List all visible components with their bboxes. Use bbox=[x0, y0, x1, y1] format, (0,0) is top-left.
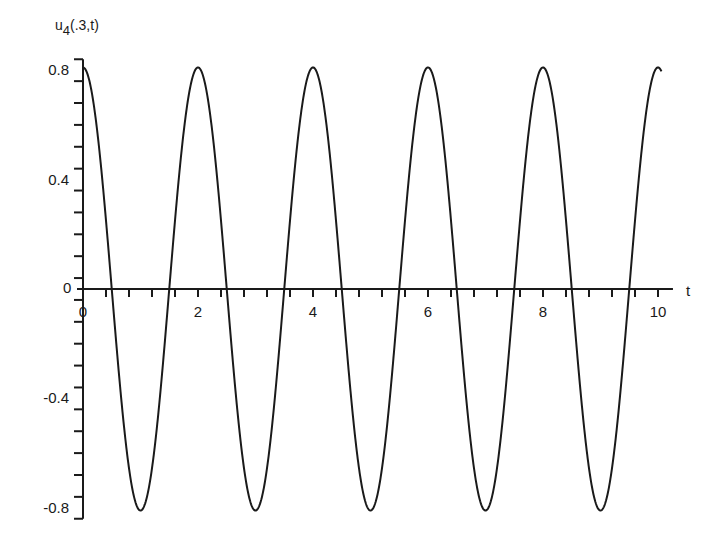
y-tick-label: 0.8 bbox=[48, 61, 69, 78]
x-tick-label: 10 bbox=[650, 303, 667, 320]
x-tick-label: 0 bbox=[79, 303, 87, 320]
x-axis-label: t bbox=[686, 282, 691, 299]
y-tick-label: 0.4 bbox=[48, 171, 69, 188]
y-tick-label: -0.4 bbox=[43, 389, 69, 406]
x-tick-label: 8 bbox=[539, 303, 547, 320]
x-tick-label: 2 bbox=[194, 303, 202, 320]
y-tick-label: -0.8 bbox=[43, 499, 69, 516]
y-tick-label: 0 bbox=[63, 279, 71, 296]
x-tick-label: 6 bbox=[424, 303, 432, 320]
x-tick-label: 4 bbox=[309, 303, 317, 320]
plot-area: 0.80.40-0.4-0.8 0246810 u4(.3,t) t bbox=[0, 0, 726, 549]
y-axis-label: u4(.3,t) bbox=[55, 17, 99, 38]
